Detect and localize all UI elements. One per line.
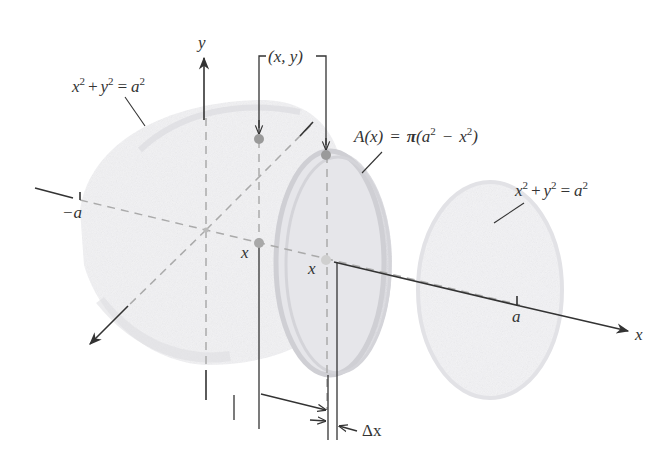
y-axis-label: y [196, 33, 206, 52]
disk-slice [276, 151, 392, 375]
x-right-label: x [307, 259, 316, 278]
point-top-left [254, 134, 264, 144]
a-label: a [512, 307, 521, 326]
point-x-left [254, 238, 264, 248]
delta-x-text: Δx [362, 421, 382, 440]
solid-of-revolution-diagram: y x −a a x x (x, y) Δx x2+y2=a2 A(x)=π(a… [0, 0, 666, 466]
point-xy-text: (x, y) [268, 47, 303, 66]
left-circle-equation: x2+y2=a2 [71, 75, 145, 96]
origin-mark [204, 228, 209, 233]
point-x-right [321, 255, 331, 265]
point-xy-label: (x, y) [268, 47, 303, 66]
area-equation: A(x)=π(a2−x2) [353, 125, 478, 146]
neg-a-label: −a [62, 203, 82, 222]
point-top-right [321, 150, 331, 160]
x-left-label: x [240, 243, 249, 262]
x-axis-label: x [634, 325, 643, 344]
delta-x-label: Δx [362, 421, 382, 440]
right-solid-surface [418, 182, 562, 398]
